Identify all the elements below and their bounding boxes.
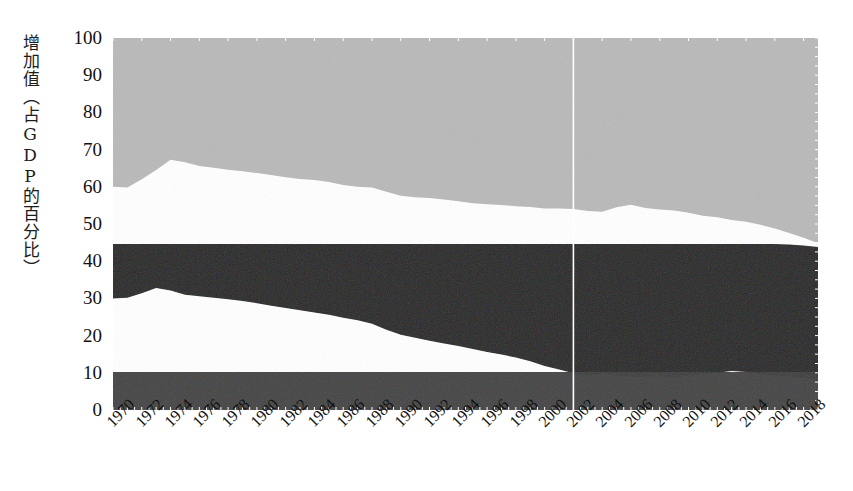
y-tick-label: 50 [83, 213, 102, 235]
y-tick-label: 100 [74, 27, 103, 49]
y-tick-label: 80 [83, 101, 102, 123]
y-tick-label: 60 [83, 176, 102, 198]
industry-band [113, 244, 818, 379]
y-tick-label: 90 [83, 64, 102, 86]
y-axis-title-text: 增加值（占GDP的百分比） [20, 34, 40, 277]
y-tick-label: 70 [83, 139, 102, 161]
x-axis-tick-labels: 1970197219741976197819801982198419861988… [0, 410, 853, 491]
y-tick-label: 30 [83, 287, 102, 309]
y-tick-label: 20 [83, 325, 102, 347]
services-band [113, 38, 818, 243]
chart-container: 增加值（占GDP的百分比） 1009080706050403020100 197… [0, 0, 853, 491]
bands-svg [113, 38, 818, 410]
y-tick-label: 10 [83, 362, 102, 384]
right-axis-ticks [815, 38, 818, 410]
y-axis-title: 增加值（占GDP的百分比） [8, 34, 52, 424]
y-tick-label: 40 [83, 250, 102, 272]
plot-area [113, 38, 818, 410]
